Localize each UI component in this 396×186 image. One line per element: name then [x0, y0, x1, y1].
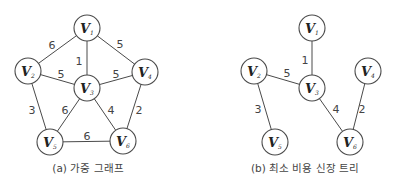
node-subscript: 4 — [370, 72, 375, 79]
node-subscript: 3 — [315, 89, 319, 96]
captions-layer: (a) 가중 그래프(b) 최소 비용 신장 트리 — [52, 162, 359, 174]
node-v3: V3 — [74, 75, 100, 101]
figure-caption-b: (b) 최소 비용 신장 트리 — [251, 162, 359, 174]
edge-weight-label: 4 — [108, 104, 115, 117]
edge-weight-label: 3 — [255, 103, 262, 116]
node-v2: V2 — [241, 58, 267, 84]
graph-diagram: 615553642615342 V1V2V3V4V5V6V1V2V3V4V5V6… — [0, 0, 396, 186]
node-v5: V5 — [37, 129, 63, 155]
node-subscript: 4 — [147, 73, 152, 80]
node-v4: V4 — [355, 58, 381, 84]
node-v1: V1 — [74, 15, 100, 41]
edge-weight-label: 2 — [359, 103, 366, 116]
edge-weight-label: 6 — [62, 104, 69, 117]
node-subscript: 6 — [353, 143, 357, 150]
node-v4: V4 — [132, 59, 158, 85]
node-subscript: 1 — [90, 29, 94, 36]
node-v6: V6 — [337, 129, 363, 155]
node-subscript: 2 — [30, 72, 35, 79]
node-subscript: 6 — [126, 142, 130, 149]
node-subscript: 5 — [53, 143, 57, 150]
node-v5: V5 — [262, 129, 288, 155]
node-subscript: 1 — [315, 29, 319, 36]
node-subscript: 3 — [90, 89, 94, 96]
edge-weight-label: 3 — [29, 104, 36, 117]
node-v3: V3 — [299, 75, 325, 101]
node-v2: V2 — [15, 58, 41, 84]
edge-weight-label: 5 — [284, 67, 291, 80]
node-v6: V6 — [110, 128, 136, 154]
node-subscript: 2 — [256, 72, 261, 79]
edge-weight-label: 6 — [84, 130, 91, 143]
edge-weight-label: 5 — [113, 68, 120, 81]
figure-caption-a: (a) 가중 그래프 — [52, 162, 123, 174]
edge-weight-label: 1 — [302, 54, 309, 67]
node-v1: V1 — [299, 15, 325, 41]
node-subscript: 5 — [278, 143, 282, 150]
nodes-layer: V1V2V3V4V5V6V1V2V3V4V5V6 — [15, 15, 381, 155]
edge-weight-label: 4 — [333, 103, 340, 116]
edge-weight-label: 5 — [117, 38, 124, 51]
edge-weight-label: 2 — [136, 104, 143, 117]
edge-weight-label: 5 — [58, 68, 65, 81]
edge-weight-label: 6 — [49, 39, 56, 52]
edge-weight-label: 1 — [76, 55, 83, 68]
